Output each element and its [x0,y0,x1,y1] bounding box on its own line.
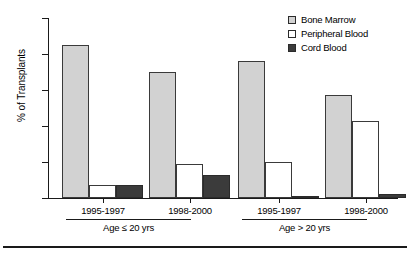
bar-cord-blood-g2 [203,175,230,198]
legend-label-peripheral-blood: Peripheral Blood [301,29,368,39]
bar-bone-marrow-g2 [149,72,176,198]
legend-label-bone-marrow: Bone Marrow [301,15,355,25]
chart-legend: Bone Marrow Peripheral Blood Cord Blood [288,14,368,56]
x-tick-mark-g3 [279,198,280,203]
legend-swatch-bone-marrow-icon [288,16,296,24]
legend-swatch-cord-blood-icon [288,44,296,52]
x-period-label-2: 1998-2000 [145,205,235,216]
legend-item-peripheral-blood: Peripheral Blood [288,28,368,40]
legend-item-cord-blood: Cord Blood [288,42,368,54]
legend-item-bone-marrow: Bone Marrow [288,14,368,26]
x-group-label-left: Age ≤ 20 yrs [66,222,191,233]
bar-peripheral-blood-g1 [89,185,116,198]
x-period-label-1: 1995-1997 [58,205,148,216]
chart-figure: % of Transplants 100 80 60 40 20 0 19 [0,0,409,254]
bar-cord-blood-g3 [292,196,319,198]
legend-swatch-peripheral-blood-icon [288,30,296,38]
x-tick-mark-g1 [103,198,104,203]
bar-peripheral-blood-g4 [352,121,379,198]
bar-peripheral-blood-g2 [176,164,203,198]
bar-cord-blood-g1 [116,185,143,198]
x-tick-mark-g4 [366,198,367,203]
x-period-label-3: 1995-1997 [234,205,324,216]
bar-peripheral-blood-g3 [265,162,292,198]
x-axis-line [48,198,398,199]
footer-divider [3,246,407,248]
group-rule-right [242,219,367,220]
bar-bone-marrow-g3 [238,61,265,198]
bar-cord-blood-g4 [379,194,406,198]
group-rule-left [66,219,191,220]
legend-label-cord-blood: Cord Blood [301,43,347,53]
bar-bone-marrow-g1 [62,45,89,198]
bar-bone-marrow-g4 [325,95,352,198]
x-period-label-4: 1998-2000 [321,205,409,216]
x-tick-mark-mid [190,198,191,203]
y-axis-title: % of Transplants [16,11,27,161]
x-group-label-right: Age > 20 yrs [242,222,367,233]
